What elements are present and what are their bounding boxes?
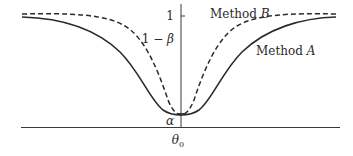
- y-label-one-minus-beta: 1 − β: [142, 32, 174, 46]
- method-b-label: Method B: [210, 7, 270, 21]
- y-label-alpha: α: [166, 114, 174, 128]
- method-a-label: Method A: [256, 44, 316, 58]
- method-b-curve: [22, 14, 336, 115]
- method-a-curve: [22, 17, 336, 115]
- y-label-one: 1: [166, 9, 174, 23]
- x-label-theta0: θ0: [172, 133, 184, 149]
- power-curve-chart: 1 1 − β α θ0 Method B Method A: [0, 0, 353, 156]
